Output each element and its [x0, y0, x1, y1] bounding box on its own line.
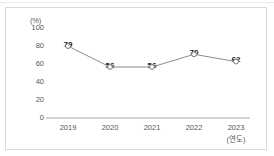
data-point-2022 — [192, 52, 197, 57]
data-point-2020 — [108, 65, 113, 70]
data-point-2023 — [234, 59, 239, 64]
series-line — [68, 46, 236, 67]
line-chart-plot — [0, 0, 274, 156]
data-point-2019 — [66, 44, 71, 49]
series-markers — [66, 44, 239, 70]
data-point-2021 — [150, 65, 155, 70]
